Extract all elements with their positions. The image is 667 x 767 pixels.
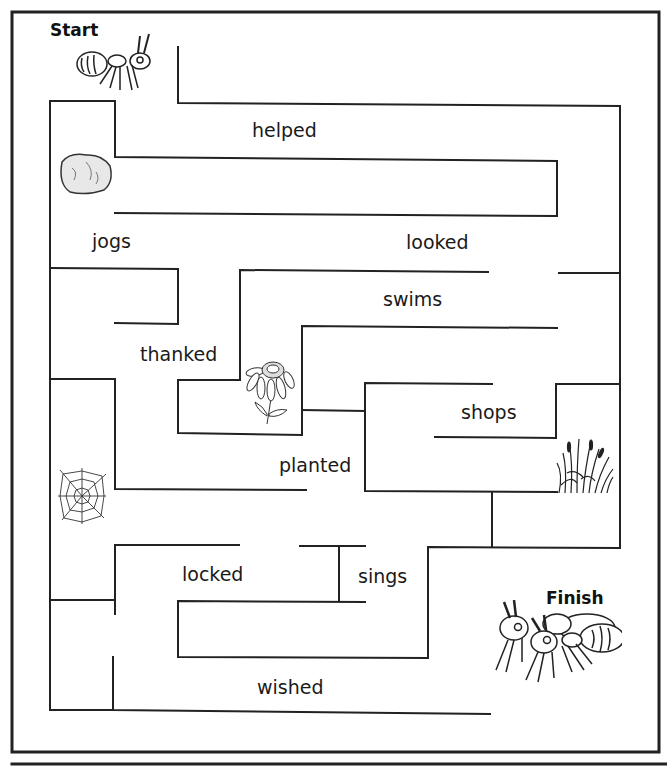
spider-web-icon <box>58 468 108 526</box>
two-ants-icon <box>492 600 622 690</box>
word-jogs: jogs <box>92 230 131 252</box>
word-sings: sings <box>358 565 407 587</box>
word-shops: shops <box>461 401 517 423</box>
flower-icon <box>245 358 297 426</box>
word-planted: planted <box>279 454 351 476</box>
word-swims: swims <box>383 288 442 310</box>
word-thanked: thanked <box>140 343 217 365</box>
grass-icon <box>555 433 615 495</box>
word-helped: helped <box>252 119 317 141</box>
word-looked: looked <box>406 231 469 253</box>
word-wished: wished <box>257 676 324 698</box>
rock-icon <box>56 150 116 198</box>
word-locked: locked <box>182 563 243 585</box>
ant-icon <box>72 28 160 96</box>
